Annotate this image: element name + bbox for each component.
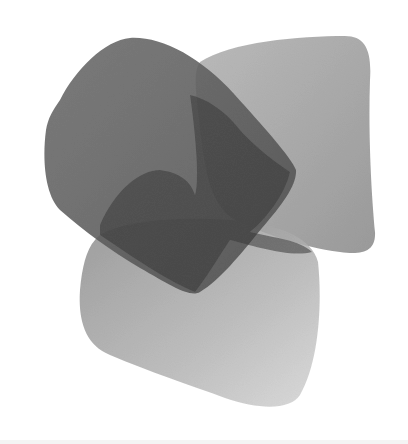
overlapping-tiles-illustration (0, 0, 408, 444)
bottom-border (0, 440, 408, 444)
photo-canvas (0, 0, 408, 444)
